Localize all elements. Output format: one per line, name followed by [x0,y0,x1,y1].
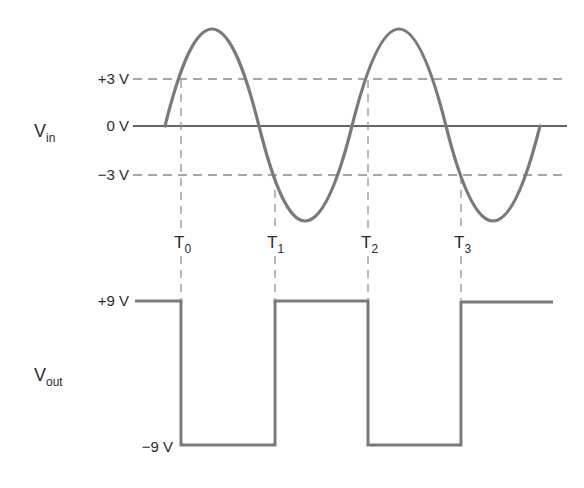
vout-label-main: V [34,365,46,385]
t0-label: T0 [174,233,191,256]
t1-label-main: T [267,233,277,252]
t3-label: T3 [454,233,471,256]
minus9-label: −9 V [142,438,173,455]
vin-label-sub: in [46,131,55,145]
t0-label-main: T [174,233,184,252]
vout-label-sub: out [46,375,63,389]
t3-label-main: T [454,233,464,252]
vin-label: Vin [34,121,55,145]
vout-label: Vout [34,365,63,389]
t2-label-sub: 2 [371,242,378,256]
time-marker-lines [181,80,461,300]
t1-label-sub: 1 [277,242,284,256]
t0-label-sub: 0 [184,242,191,256]
vin-sine-wave [165,29,540,221]
t3-label-sub: 3 [464,242,471,256]
t2-label-main: T [361,233,371,252]
timing-diagram: +3 V 0 V −3 V +9 V −9 V Vin Vout T0 T1 T… [0,0,584,488]
t2-label: T2 [361,233,378,256]
minus3-label: −3 V [98,166,129,183]
zero-volt-label: 0 V [106,117,129,134]
vout-square-wave [135,301,553,445]
t1-label: T1 [267,233,284,256]
plus3-label: +3 V [98,70,129,87]
plus9-label: +9 V [98,292,129,309]
vin-label-main: V [34,121,46,141]
